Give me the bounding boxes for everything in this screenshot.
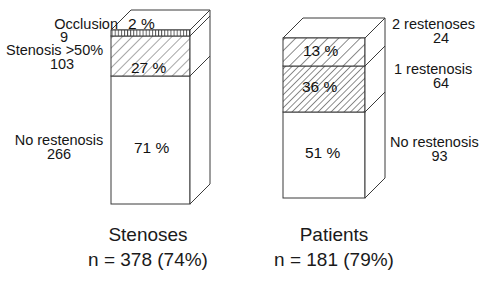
label-2-restenoses-count: 24 <box>392 31 490 46</box>
label-no-restenosis-patients-count: 93 <box>390 149 489 164</box>
left-segment-no-restenosis-side <box>190 56 210 204</box>
percent-label-no-restenosis-stenoses: 71 % <box>134 140 169 156</box>
percent-label-stenosis-over-50: 27 % <box>131 60 166 76</box>
label-stenosis-over-50-count: 103 <box>6 57 118 72</box>
percent-label-2-restenoses: 13 % <box>303 43 338 59</box>
percent-label-no-restenosis-patients: 51 % <box>305 145 340 161</box>
caption-title-stenoses: Stenoses <box>78 224 218 246</box>
label-no-restenosis-stenoses-count: 266 <box>4 147 114 162</box>
caption-subtitle-patients: n = 181 (79%) <box>254 249 414 271</box>
caption-subtitle-stenoses: n = 378 (74%) <box>68 249 228 271</box>
percent-label-occlusion: 2 % <box>128 16 155 32</box>
caption-title-patients: Patients <box>264 224 404 246</box>
left-bar-3d <box>111 10 210 204</box>
label-1-restenosis-count: 64 <box>394 76 488 91</box>
percent-label-1-restenosis: 36 % <box>302 79 337 95</box>
